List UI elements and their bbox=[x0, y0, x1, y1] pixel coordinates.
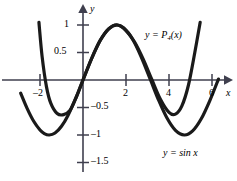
y-tick-label-0.5: 0.5 bbox=[54, 46, 67, 56]
x-tick-label-6: 6 bbox=[209, 88, 214, 98]
curve-label-taylor: y = P4(x) bbox=[145, 30, 182, 42]
x-axis-arrow bbox=[224, 75, 233, 85]
x-tick-label-2: 2 bbox=[123, 88, 128, 98]
y-axis-arrow bbox=[78, 4, 87, 13]
y-tick-label--1.5: –1.5 bbox=[91, 156, 109, 166]
y-tick-label--1: –1 bbox=[91, 129, 101, 139]
y-tick-label-1: 1 bbox=[64, 19, 69, 29]
x-axis-label: x bbox=[226, 88, 230, 98]
figure-sin-taylor-approximation: 1 0.5 –0.5 –1 –1.5 –2 2 4 6 y x y = P4(x… bbox=[0, 0, 237, 181]
y-axis-label: y bbox=[90, 4, 94, 14]
x-tick-label-4: 4 bbox=[166, 88, 171, 98]
x-tick-label--2: –2 bbox=[33, 88, 43, 98]
curve-label-taylor-suffix: (x) bbox=[171, 29, 182, 40]
y-tick-label--0.5: –0.5 bbox=[91, 101, 109, 111]
curve-label-sine: y = sin x bbox=[163, 148, 198, 158]
curve-label-taylor-prefix: y = P bbox=[145, 29, 167, 40]
